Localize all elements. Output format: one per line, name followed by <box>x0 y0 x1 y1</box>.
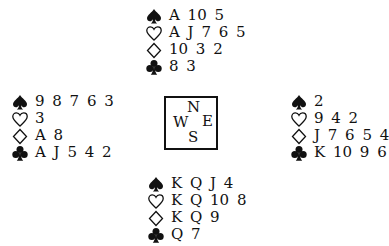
west-diamonds-cards: A 8 <box>35 127 63 144</box>
club-icon <box>290 145 308 162</box>
diamond-icon <box>145 42 163 59</box>
club-icon <box>145 59 163 76</box>
north-clubs-cards: 8 3 <box>169 58 196 75</box>
south-hearts-cards: K Q 10 8 <box>171 192 246 209</box>
east-clubs-cards: K 10 9 6 <box>314 144 387 161</box>
spade-icon <box>147 176 165 193</box>
diamond-icon <box>11 128 29 145</box>
diamond-icon <box>290 128 308 145</box>
compass-south-label: S <box>188 130 198 145</box>
club-icon <box>11 145 29 162</box>
east-hearts-cards: 9 4 2 <box>314 110 358 127</box>
club-icon <box>147 227 165 244</box>
compass-north-label: N <box>187 100 200 115</box>
heart-icon <box>147 193 165 210</box>
heart-icon <box>11 111 29 128</box>
diamond-icon <box>147 210 165 227</box>
compass-west-label: W <box>173 115 188 130</box>
west-hearts-cards: 3 <box>35 110 45 127</box>
north-diamonds-cards: 10 3 2 <box>169 41 223 58</box>
spade-icon <box>11 94 29 111</box>
north-spades-cards: A 10 5 <box>169 7 224 24</box>
spade-icon <box>145 8 163 25</box>
east-diamonds-cards: J 7 6 5 4 <box>314 127 389 144</box>
west-spades-cards: 9 8 7 6 3 <box>35 93 114 110</box>
heart-icon <box>145 25 163 42</box>
heart-icon <box>290 111 308 128</box>
south-clubs-cards: Q 7 <box>171 226 201 243</box>
west-clubs-cards: A J 5 4 2 <box>35 144 112 161</box>
south-diamonds-cards: K Q 9 <box>171 209 220 226</box>
compass-east-label: E <box>202 114 213 129</box>
south-spades-cards: K Q J 4 <box>171 175 233 192</box>
north-hearts-cards: A J 7 6 5 <box>169 24 246 41</box>
east-spades-cards: 2 <box>314 93 324 110</box>
compass-box: N W E S <box>164 96 218 150</box>
spade-icon <box>290 94 308 111</box>
